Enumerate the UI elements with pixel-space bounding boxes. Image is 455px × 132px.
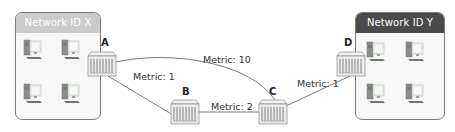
computer-icon — [406, 42, 424, 61]
router-icon-a — [88, 52, 116, 76]
computer-icon — [62, 84, 80, 103]
computer-icon — [367, 84, 385, 103]
diagram-canvas — [0, 0, 455, 132]
computers-network-x — [24, 40, 80, 103]
metric-label-a-c: Metric: 10 — [203, 54, 251, 65]
router-label-b: B — [182, 86, 190, 97]
computers-network-y — [367, 42, 424, 103]
metric-label-b-c: Metric: 2 — [211, 101, 253, 112]
metric-label-c-d: Metric: 1 — [297, 78, 339, 89]
router-label-a: A — [101, 37, 109, 48]
computer-icon — [406, 84, 424, 103]
computer-icon — [24, 40, 42, 59]
computer-icon — [367, 42, 385, 61]
computer-icon — [24, 84, 42, 103]
computer-icon — [62, 40, 80, 59]
router-label-d: D — [344, 37, 352, 48]
router-icon-b — [171, 100, 199, 124]
router-label-c: C — [269, 86, 276, 97]
metric-label-a-b: Metric: 1 — [133, 71, 175, 82]
router-icon-c — [259, 100, 287, 124]
router-icon-d — [337, 52, 365, 76]
